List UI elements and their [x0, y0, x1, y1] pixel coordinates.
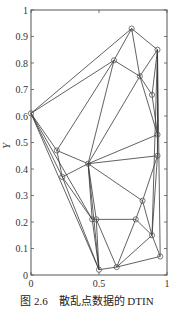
triangle-edge	[31, 113, 57, 150]
y-tick-label: 0.3	[16, 190, 29, 201]
triangle-edge	[117, 235, 152, 267]
x-tick-label: 0	[29, 278, 34, 289]
triangle-edge	[57, 150, 62, 177]
y-tick-label: 0.6	[16, 111, 29, 122]
y-tick-label: 0.9	[16, 31, 29, 42]
triangle-edge	[114, 29, 132, 61]
triangle-edge	[152, 95, 157, 135]
dtin-chart: 00.10.20.30.40.50.60.70.80.91 00.51 Y X	[0, 0, 174, 290]
y-axis-ticks: 00.10.20.30.40.50.60.70.80.91	[16, 5, 168, 281]
triangle-edge	[62, 177, 99, 270]
y-tick-label: 0.1	[16, 243, 29, 254]
figure-number: 图 2.6	[20, 295, 48, 307]
y-tick-label: 1	[23, 5, 28, 16]
figure-title: 散乱点数据的 DTIN	[59, 295, 154, 307]
triangle-edge	[62, 177, 92, 219]
x-tick-label: 1	[165, 278, 170, 289]
y-axis-label: Y	[0, 141, 12, 149]
triangle-edge	[132, 29, 140, 77]
triangle-edge	[62, 164, 88, 177]
triangle-edge	[31, 29, 132, 114]
triangle-edge	[31, 60, 114, 113]
triangle-edge	[152, 235, 160, 256]
triangle-edge	[88, 164, 142, 201]
triangle-edge	[88, 60, 114, 163]
triangle-edge	[57, 60, 114, 150]
triangle-edge	[31, 113, 62, 177]
triangle-edge	[152, 50, 157, 236]
figure-caption: 图 2.6 散乱点数据的 DTIN	[0, 292, 174, 308]
y-tick-label: 0	[23, 270, 28, 281]
triangle-edge	[140, 76, 158, 134]
triangle-edge	[31, 113, 99, 269]
triangle-edge	[132, 29, 158, 50]
x-axis-ticks: 00.51	[29, 10, 170, 289]
triangulation-edges	[31, 29, 160, 270]
y-tick-label: 0.4	[16, 164, 29, 175]
y-tick-label: 0.2	[16, 217, 29, 228]
triangle-edge	[114, 60, 140, 76]
triangle-edge	[140, 76, 152, 95]
triangle-edge	[117, 219, 136, 267]
triangle-edge	[117, 256, 161, 267]
x-tick-label: 0.5	[93, 278, 106, 289]
y-tick-label: 0.5	[16, 137, 29, 148]
y-tick-label: 0.7	[16, 84, 29, 95]
triangle-edge	[57, 150, 88, 163]
triangle-edge	[96, 219, 116, 267]
y-tick-label: 0.8	[16, 58, 29, 69]
